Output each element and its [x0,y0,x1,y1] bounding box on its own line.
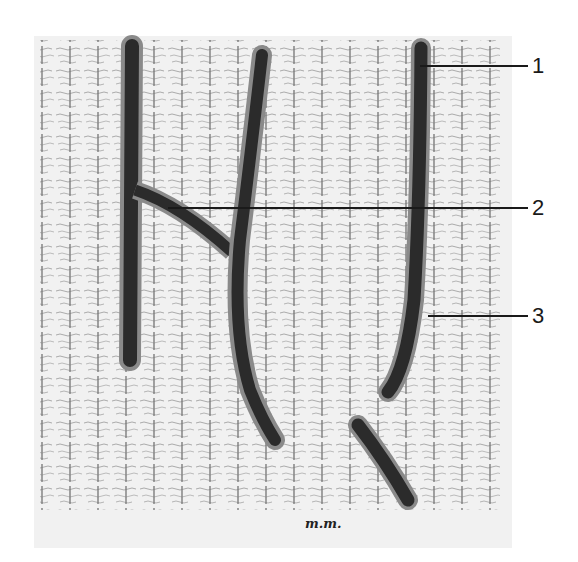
histology-figure: 1 2 3 m.m. [0,0,578,562]
artist-signature: m.m. [305,516,342,531]
vessel-drawing [0,0,578,562]
label-3: 3 [532,305,544,327]
label-2: 2 [532,197,544,219]
label-1: 1 [532,55,544,77]
